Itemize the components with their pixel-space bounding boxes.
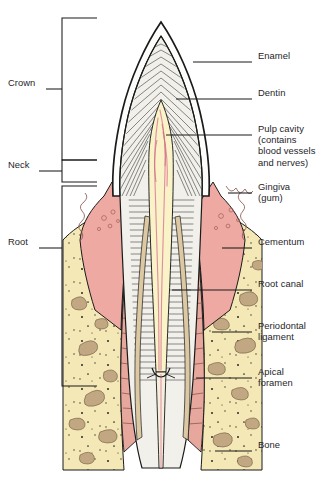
- label-neck: Neck: [8, 159, 30, 170]
- label-crown: Crown: [8, 77, 35, 88]
- label-root: Root: [8, 236, 28, 247]
- label-apical-foramen: Apical foramen: [258, 366, 320, 388]
- label-gingiva: Gingiva (gum): [258, 181, 320, 203]
- label-root-canal: Root canal: [258, 278, 303, 289]
- label-pulp-cavity: Pulp cavity (contains blood vessels and …: [258, 123, 322, 168]
- tooth-anatomy-diagram: Enamel Dentin Pulp cavity (contains bloo…: [0, 0, 323, 488]
- label-dentin: Dentin: [258, 87, 285, 98]
- label-bone: Bone: [258, 439, 280, 450]
- label-cementum: Cementum: [258, 236, 304, 247]
- label-periodontal-ligament: Periodontal ligament: [258, 320, 320, 342]
- label-enamel: Enamel: [258, 50, 290, 61]
